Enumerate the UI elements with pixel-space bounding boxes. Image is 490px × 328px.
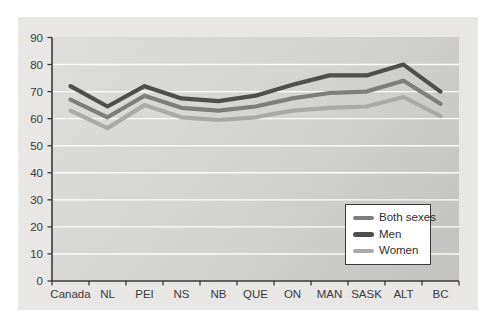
x-axis-label-alt: ALT bbox=[393, 288, 413, 300]
x-axis-label-nb: NB bbox=[211, 288, 227, 300]
legend-swatch-men bbox=[353, 232, 374, 237]
y-axis-label-60: 60 bbox=[30, 113, 43, 125]
x-axis-label-on: ON bbox=[284, 288, 301, 300]
y-axis-labels: 0102030405060708090 bbox=[30, 32, 43, 288]
y-axis-label-10: 10 bbox=[30, 248, 43, 260]
series-line-women bbox=[71, 97, 441, 128]
legend-label-women: Women bbox=[379, 245, 418, 257]
y-axis-label-70: 70 bbox=[30, 86, 43, 98]
x-axis-label-canada: Canada bbox=[50, 288, 91, 300]
legend-item-men: Men bbox=[353, 229, 430, 241]
y-axis-label-80: 80 bbox=[30, 59, 43, 71]
legend: Both sexes Men Women bbox=[345, 204, 431, 265]
x-axis-label-sask: SASK bbox=[351, 288, 382, 300]
y-axis-label-20: 20 bbox=[30, 221, 43, 233]
x-axis-label-nl: NL bbox=[100, 288, 115, 300]
legend-item-women: Women bbox=[353, 245, 430, 257]
x-axis-label-bc: BC bbox=[433, 288, 449, 300]
legend-label-men: Men bbox=[379, 229, 401, 241]
x-axis-label-ns: NS bbox=[174, 288, 190, 300]
y-axis-label-90: 90 bbox=[30, 32, 43, 44]
x-axis-labels: CanadaNLPEINSNBQUEONMANSASKALTBC bbox=[50, 288, 448, 300]
y-axis-label-0: 0 bbox=[37, 275, 43, 287]
series-line-both-sexes bbox=[71, 81, 441, 118]
legend-item-both-sexes: Both sexes bbox=[353, 212, 430, 224]
x-axis-label-pei: PEI bbox=[135, 288, 154, 300]
legend-label-both-sexes: Both sexes bbox=[379, 212, 436, 224]
chart-page: 0102030405060708090 CanadaNLPEINSNBQUEON… bbox=[0, 0, 490, 328]
x-axis-label-que: QUE bbox=[243, 288, 268, 300]
legend-swatch-women bbox=[353, 249, 374, 254]
line-chart: 0102030405060708090 CanadaNLPEINSNBQUEON… bbox=[0, 0, 490, 328]
x-axis-label-man: MAN bbox=[317, 288, 343, 300]
legend-swatch-both-sexes bbox=[353, 216, 374, 221]
y-axis-label-50: 50 bbox=[30, 140, 43, 152]
y-axis-label-40: 40 bbox=[30, 167, 43, 179]
y-axis-label-30: 30 bbox=[30, 194, 43, 206]
